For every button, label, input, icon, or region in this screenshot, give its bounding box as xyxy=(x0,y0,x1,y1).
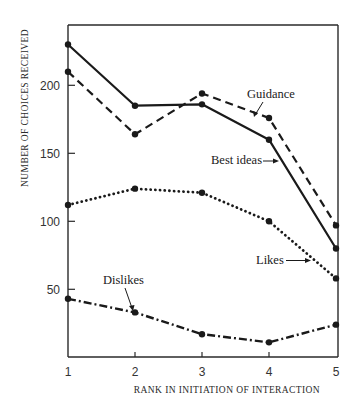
annotation-guidance-label: Guidance xyxy=(247,87,295,101)
annotation-likes-label: Likes xyxy=(256,253,284,267)
data-point-marker xyxy=(333,222,339,228)
x-tick-label: 3 xyxy=(199,365,206,379)
x-tick-label: 4 xyxy=(266,365,273,379)
y-axis-title: NUMBER OF CHOICES RECEIVED xyxy=(20,29,30,187)
data-point-marker xyxy=(266,137,272,143)
series-line xyxy=(68,189,336,279)
x-tick-label: 5 xyxy=(333,365,340,379)
annotation-best-ideas: Best ideas xyxy=(211,153,279,167)
data-point-marker xyxy=(199,190,205,196)
series-likes xyxy=(65,185,339,281)
annotation-dislikes-arrow xyxy=(125,288,132,308)
data-point-marker xyxy=(266,115,272,121)
series-guidance xyxy=(65,69,339,229)
series-best-ideas xyxy=(65,41,339,251)
data-point-marker xyxy=(65,41,71,47)
y-tick-label: 100 xyxy=(40,215,60,229)
annotation-likes: Likes xyxy=(256,253,311,267)
arrowhead-icon xyxy=(273,159,279,164)
y-tick-label: 200 xyxy=(40,79,60,93)
x-tick-label: 2 xyxy=(132,365,139,379)
data-point-marker xyxy=(199,331,205,337)
data-point-marker xyxy=(333,275,339,281)
y-tick-label: 50 xyxy=(47,283,61,297)
series-dislikes xyxy=(65,296,339,346)
x-axis-ticks: 12345 xyxy=(65,352,340,379)
line-chart: 50100150200 12345 NUMBER OF CHOICES RECE… xyxy=(0,0,358,407)
x-tick-label: 1 xyxy=(65,365,72,379)
data-point-marker xyxy=(333,321,339,327)
y-axis-ticks: 50100150200 xyxy=(40,79,75,297)
series-group xyxy=(65,41,339,345)
data-point-marker xyxy=(266,218,272,224)
data-point-marker xyxy=(199,101,205,107)
annotation-dislikes-label: Dislikes xyxy=(103,273,144,287)
series-line xyxy=(68,45,336,249)
data-point-marker xyxy=(266,339,272,345)
y-tick-label: 150 xyxy=(40,147,60,161)
x-axis-title: RANK IN INITIATION OF INTERACTION xyxy=(134,385,320,395)
annotation-guidance: Guidance xyxy=(247,87,295,117)
data-point-marker xyxy=(65,296,71,302)
data-point-marker xyxy=(65,69,71,75)
data-point-marker xyxy=(132,185,138,191)
data-point-marker xyxy=(333,245,339,251)
arrowhead-icon xyxy=(305,258,311,263)
data-point-marker xyxy=(132,131,138,137)
annotation-dislikes: Dislikes xyxy=(103,273,144,311)
data-point-marker xyxy=(132,103,138,109)
data-point-marker xyxy=(65,202,71,208)
data-point-marker xyxy=(199,90,205,96)
annotation-best-ideas-label: Best ideas xyxy=(211,153,262,167)
